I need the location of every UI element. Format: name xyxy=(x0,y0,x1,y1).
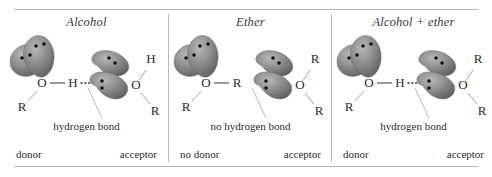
acceptor-lone-pair-lobes xyxy=(90,51,129,99)
molecule-diagram: O R R O R R xyxy=(169,10,332,166)
acceptor-role-label: acceptor xyxy=(284,148,321,160)
donor-substituent-label: R xyxy=(182,99,191,114)
donor-bonded-group-label: R xyxy=(233,75,242,90)
acceptor-lone-pair-lobes xyxy=(254,51,293,99)
acceptor-upper-substituent-label: R xyxy=(474,51,483,66)
acceptor-oxygen-label: O xyxy=(458,77,467,92)
acceptor-lone-pair-lobes xyxy=(417,51,456,99)
donor-oxygen-label: O xyxy=(201,75,210,90)
donor-oxygen-label: O xyxy=(364,75,373,90)
acceptor-upper-substituent-label: R xyxy=(311,51,320,66)
donor-hydrogen-label: H xyxy=(68,75,77,90)
donor-substituent-label: R xyxy=(18,99,27,114)
donor-oxygen-label: O xyxy=(37,75,46,90)
bond-label-leader-line xyxy=(88,88,102,118)
bond-label: no hydrogen bond xyxy=(169,120,332,132)
hydrogen-bonding-figure: Alcohol xyxy=(0,0,492,177)
acceptor-oxygen-label: O xyxy=(295,77,304,92)
donor-hydrogen-label: H xyxy=(395,75,404,90)
panel-ether: Ether O xyxy=(169,10,332,166)
panel-alcohol-plus-ether: Alcohol + ether xyxy=(332,10,492,166)
acceptor-oxygen-label: O xyxy=(131,77,140,92)
acceptor-role-label: acceptor xyxy=(447,148,484,160)
molecule-diagram: O R H O xyxy=(5,10,168,166)
donor-substituent-label: R xyxy=(345,99,354,114)
donor-lone-pair-lobes xyxy=(174,35,218,77)
donor-role-label: no donor xyxy=(180,148,219,160)
donor-role-label: donor xyxy=(343,148,369,160)
molecule-diagram: O R H O R R xyxy=(332,10,492,166)
donor-role-label: donor xyxy=(16,148,42,160)
acceptor-lower-substituent-label: R xyxy=(151,103,160,118)
bond-label: hydrogen bond xyxy=(332,120,492,132)
role-row: no donor acceptor xyxy=(169,148,332,160)
bond-label: hydrogen bond xyxy=(5,120,168,132)
acceptor-upper-substituent-label: H xyxy=(146,51,155,66)
acceptor-role-label: acceptor xyxy=(120,148,157,160)
donor-lone-pair-lobes xyxy=(337,35,381,77)
donor-lone-pair-lobes xyxy=(10,35,54,77)
bond-label-leader-line xyxy=(415,88,429,118)
role-row: donor acceptor xyxy=(5,148,168,160)
bond-label-leader-line xyxy=(252,88,266,118)
role-row: donor acceptor xyxy=(332,148,492,160)
acceptor-lower-substituent-label: R xyxy=(478,103,487,118)
bottom-rule xyxy=(14,166,478,167)
panel-alcohol: Alcohol xyxy=(5,10,168,166)
acceptor-lower-substituent-label: R xyxy=(315,103,324,118)
